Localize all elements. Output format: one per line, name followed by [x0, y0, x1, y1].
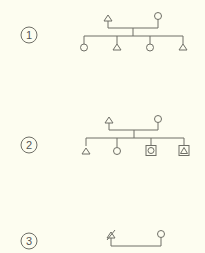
female-circle-icon	[148, 148, 154, 154]
pedigree-2: 2	[21, 116, 189, 156]
label-2: 2	[21, 137, 37, 153]
label-3: 3	[21, 233, 37, 249]
pedigree-3: 3	[21, 230, 165, 249]
male-triangle-icon	[82, 148, 90, 154]
male-triangle-icon	[113, 44, 121, 50]
male-triangle-icon	[179, 44, 187, 50]
female-circle-icon	[147, 44, 154, 51]
female-circle-icon	[158, 231, 165, 238]
female-circle-icon	[114, 148, 121, 155]
label-number: 2	[26, 139, 32, 151]
female-circle-icon	[81, 44, 88, 51]
female-circle-icon	[155, 116, 162, 123]
pedigree-1: 1	[21, 13, 187, 52]
label-1: 1	[21, 27, 37, 43]
female-circle-icon	[155, 13, 162, 20]
pedigree-diagrams: 1 2	[0, 0, 205, 253]
male-triangle-icon	[105, 117, 113, 123]
male-triangle-icon	[181, 148, 188, 154]
male-triangle-icon	[104, 15, 112, 21]
label-number: 1	[26, 29, 32, 41]
label-number: 3	[26, 235, 32, 247]
